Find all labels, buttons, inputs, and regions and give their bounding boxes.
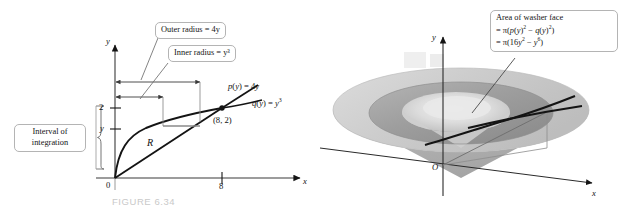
figure-container: Outer radius = 4y Inner radius = y³ Inte…	[0, 0, 625, 223]
label-q-function: q(y) = y3	[252, 97, 282, 108]
intersection-point-label: (8, 2)	[213, 115, 232, 125]
intersection-point-dot	[219, 105, 224, 110]
y-tick-label-2: 2	[99, 102, 103, 112]
callout-inner-radius-text: Inner radius = y³	[174, 48, 230, 57]
callout-inner-radius: Inner radius = y³	[168, 45, 236, 62]
label-p-function: p(y) = 4y	[228, 81, 259, 91]
origin-label: O	[432, 162, 438, 172]
region-label-R: R	[147, 137, 153, 148]
washer-line-1: Area of washer face	[496, 13, 612, 24]
left-panel-2d-region: Outer radius = 4y Inner radius = y³ Inte…	[0, 0, 320, 223]
x-axis-label: x	[592, 188, 596, 198]
interval-line-1: Interval of	[20, 127, 80, 138]
x-tick-label-8: 8	[219, 181, 223, 191]
callout-washer-face-area: Area of washer face = π(p(y)2 − q(y)2) =…	[490, 10, 618, 52]
line-p-4y	[115, 108, 222, 178]
y-axis-label: y	[106, 36, 110, 46]
solid-inner-highlight	[423, 96, 491, 120]
callout-outer-radius-text: Outer radius = 4y	[161, 25, 220, 34]
callout-outer-radius: Outer radius = 4y	[155, 22, 226, 39]
scan-artifact	[404, 52, 426, 68]
scan-artifact-2	[430, 54, 444, 67]
inner-radius-leader-line	[140, 63, 168, 99]
outer-radius-leader-line	[141, 38, 158, 80]
x-axis-label: x	[303, 176, 307, 186]
y-tick-label-y: y	[100, 123, 104, 133]
origin-label: 0	[106, 180, 110, 190]
right-panel-3d-solid: Area of washer face = π(p(y)2 − q(y)2) =…	[320, 0, 625, 223]
y-axis-label: y	[432, 32, 436, 42]
interval-line-2: integration	[20, 138, 80, 149]
washer-line-2: = π(p(y)2 − q(y)2)	[496, 24, 612, 37]
figure-caption: FIGURE 6.34	[112, 196, 175, 207]
interval-of-integration-brace	[98, 106, 105, 169]
callout-interval-of-integration: Interval of integration	[14, 124, 86, 152]
washer-line-3: = π(16y2 − y6)	[496, 36, 612, 49]
